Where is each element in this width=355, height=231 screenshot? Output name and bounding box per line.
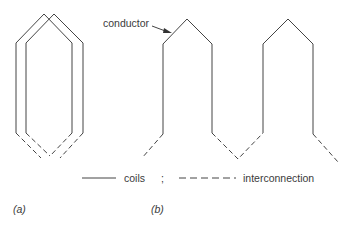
panel-a-label: (a) [13,204,26,215]
conductor-arrow-head [163,28,172,33]
legend-coils-label: coils [124,173,145,184]
interconnection-a1-left [16,133,41,158]
conductor-label: conductor [103,18,149,29]
interconnection-b-left [142,134,163,158]
legend-interconnection-label: interconnection [243,173,314,184]
coil-a1 [16,14,72,133]
diagram-canvas [0,0,355,231]
interconnection-b-middle [212,133,263,159]
interconnection-a2-left [26,133,50,156]
coil-a2 [26,14,83,133]
panel-b-label: (b) [151,204,164,215]
interconnection-a2-right [60,133,83,158]
legend-separator: ; [161,173,164,184]
interconnection-a1-right [50,133,72,156]
coil-b1 [163,19,212,134]
interconnection-b-right [313,134,338,162]
coil-b2 [263,19,313,134]
